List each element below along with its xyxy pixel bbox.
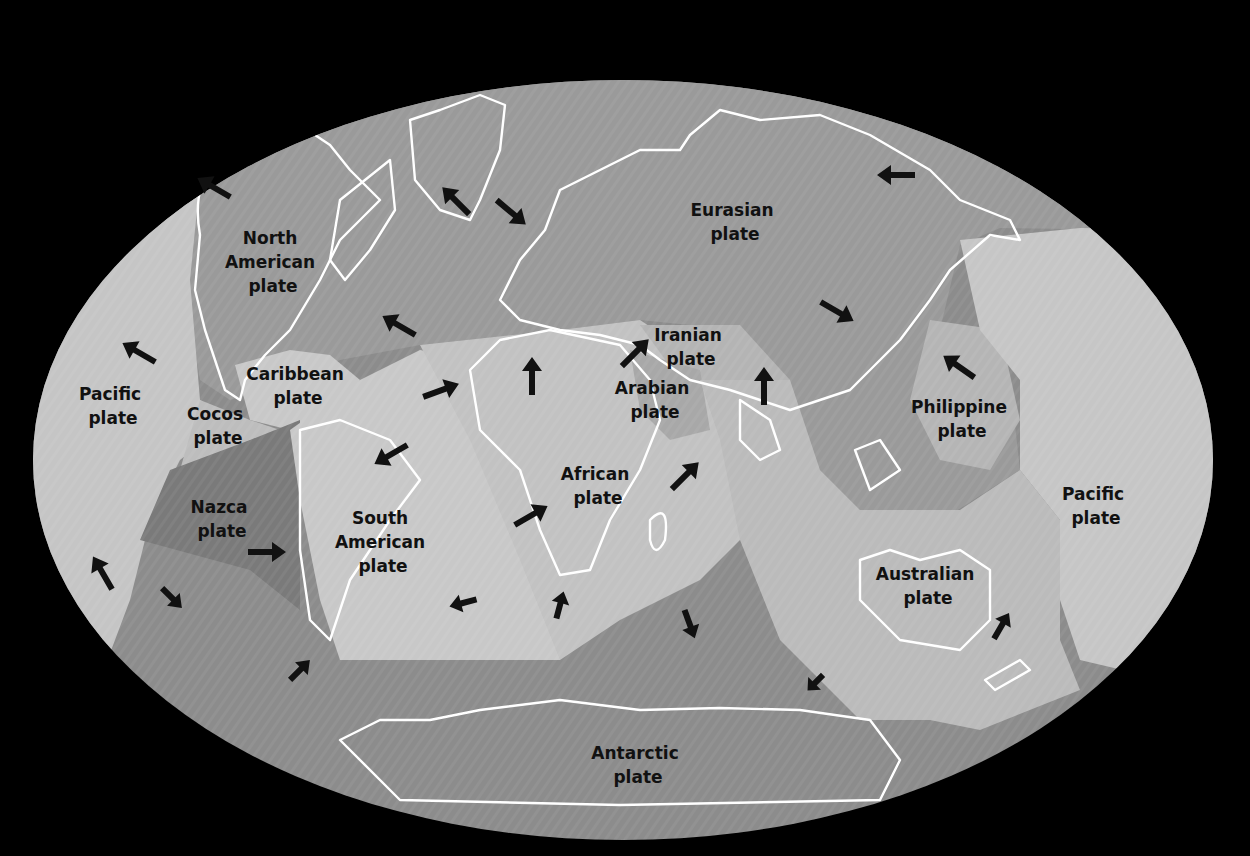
tectonic-plate-map: North American plate Eurasian plate Paci… bbox=[0, 0, 1250, 856]
globe bbox=[0, 0, 1250, 856]
